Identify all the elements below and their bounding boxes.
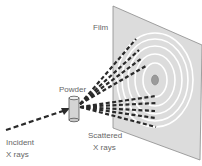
scattered-label-line1: Scattered [88, 131, 122, 140]
incident-ray [6, 110, 66, 130]
film-label: Film [93, 23, 108, 32]
powder-sample [69, 96, 79, 122]
powder-label: Powder [59, 85, 86, 94]
scattered-label-line2: X rays [93, 143, 116, 152]
diffraction-diagram: Film Powder Incident X rays Scattered X … [0, 0, 202, 166]
incident-label-line2: X rays [6, 150, 29, 159]
central-beam-spot [152, 75, 159, 85]
incident-label-line1: Incident [6, 138, 35, 147]
